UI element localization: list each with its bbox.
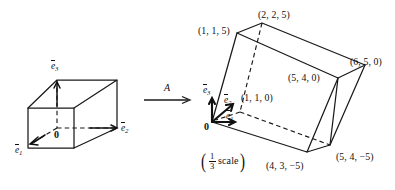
- scale-close-paren: ): [240, 153, 245, 169]
- solid-origin-text: 0: [204, 121, 209, 132]
- cube-e1-label: e1: [15, 146, 23, 156]
- solid-e2-label: e2: [224, 96, 232, 106]
- solid-top-face: [237, 23, 365, 78]
- scale-denominator: 3: [210, 162, 214, 171]
- scale-numerator: 1: [210, 152, 214, 161]
- cube-e2-label: e2: [121, 124, 129, 134]
- solid-e1-subscript: 1: [230, 115, 234, 122]
- scale-note: ( 1 3 scale ): [200, 152, 246, 171]
- cube-e3-subscript: 3: [55, 65, 59, 72]
- scale-fraction: 1 3: [209, 152, 216, 171]
- vertex-label-1-1-5: (1, 1, 5): [198, 26, 230, 36]
- cube-e3-label: e3: [51, 62, 59, 72]
- parallelepiped-edges: [212, 23, 365, 152]
- scale-word: scale: [218, 156, 239, 166]
- solid-front-face: [212, 33, 338, 152]
- vertex-label-4-3-minus5: (4, 3, −5): [266, 161, 304, 171]
- linear-transformation-figure: e3 e2 e1 0 A e3 e2 e1 0 (1, 1, 5) (2, 2,…: [0, 0, 395, 190]
- vertex-label-5-4-minus5: (5, 4, −5): [336, 152, 374, 162]
- cube-e2-subscript: 2: [125, 127, 129, 134]
- vertex-label-1-1-0: (1, 1, 0): [241, 93, 273, 103]
- vertex-label-5-4-0: (5, 4, 0): [288, 73, 320, 83]
- map-arrow-label: A: [164, 83, 170, 93]
- cube-top-face: [28, 80, 117, 108]
- solid-origin-label: 0: [204, 122, 209, 132]
- cube-right-face: [74, 80, 117, 148]
- transformation-arrow: [144, 97, 190, 104]
- cube-e1-subscript: 1: [19, 149, 23, 156]
- solid-e1-label: e1: [226, 112, 234, 122]
- solid-e3-label: e3: [203, 86, 211, 96]
- cube-origin-label: 0: [54, 130, 59, 140]
- solid-e2-subscript: 2: [228, 99, 232, 106]
- vertex-label-2-2-5: (2, 2, 5): [258, 10, 290, 20]
- scale-open-paren: (: [201, 153, 206, 169]
- cube-origin-text: 0: [54, 129, 59, 140]
- solid-e3-subscript: 3: [207, 89, 211, 96]
- vertex-label-6-5-0: (6, 5, 0): [350, 57, 382, 67]
